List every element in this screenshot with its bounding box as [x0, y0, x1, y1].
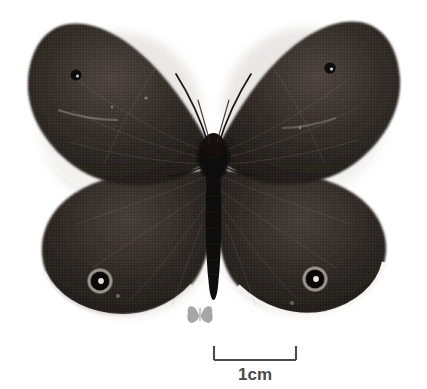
left-hindwing-ocellus — [87, 268, 113, 294]
butterfly-silhouette-icon — [186, 304, 214, 328]
left-forewing-ocellus — [71, 70, 82, 81]
right-hindwing-ocellus — [302, 266, 328, 292]
right-forewing-ocellus — [324, 62, 335, 73]
scale-bar-graphic — [206, 344, 304, 366]
scale-bar-label: 1cm — [206, 364, 304, 386]
butterfly-specimen-image — [0, 0, 427, 330]
scale-bar: 1cm — [206, 344, 304, 388]
specimen-stage — [0, 0, 427, 330]
specimen-plate: 1cm — [0, 0, 427, 389]
butterfly-silhouette-marker — [186, 304, 214, 328]
